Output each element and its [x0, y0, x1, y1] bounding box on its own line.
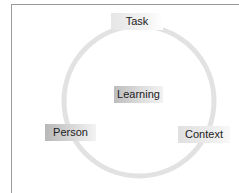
- node-person: Person: [45, 124, 96, 141]
- node-task-label: Task: [126, 15, 149, 27]
- node-learning-center: Learning: [114, 86, 163, 103]
- node-context-label: Context: [185, 128, 223, 140]
- node-context: Context: [178, 126, 230, 143]
- node-person-label: Person: [53, 126, 88, 138]
- node-learning-label: Learning: [117, 88, 160, 100]
- node-task: Task: [111, 13, 163, 30]
